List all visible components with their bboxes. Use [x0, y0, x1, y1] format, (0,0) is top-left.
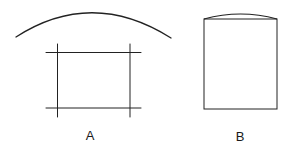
figure-b-label: B [236, 130, 245, 143]
figure-b-top-arc [204, 14, 277, 19]
figure-b-rectangle [204, 19, 277, 109]
figure-a [16, 13, 171, 117]
diagram-canvas [0, 0, 293, 151]
figure-b [204, 14, 277, 109]
figure-a-label: A [86, 129, 95, 142]
figure-a-arc [16, 13, 171, 38]
